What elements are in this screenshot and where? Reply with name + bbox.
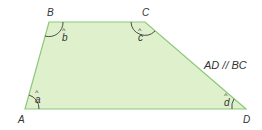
vertex-label-a: A	[17, 114, 25, 125]
vertex-label-d: D	[243, 114, 250, 125]
parallel-annotation: AD // BC	[203, 59, 247, 71]
trapezoid-diagram: B C A D b ^ c ^ a ^ d ^ AD // BC	[0, 0, 262, 130]
vertex-label-c: C	[142, 7, 150, 18]
vertex-label-b: B	[47, 7, 54, 18]
